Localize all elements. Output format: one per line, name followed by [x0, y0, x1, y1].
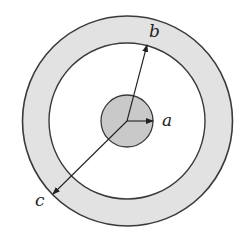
label-a: a: [162, 110, 172, 130]
label-c: c: [35, 190, 45, 210]
coaxial-diagram: a b c: [0, 0, 244, 237]
label-b: b: [149, 21, 160, 41]
